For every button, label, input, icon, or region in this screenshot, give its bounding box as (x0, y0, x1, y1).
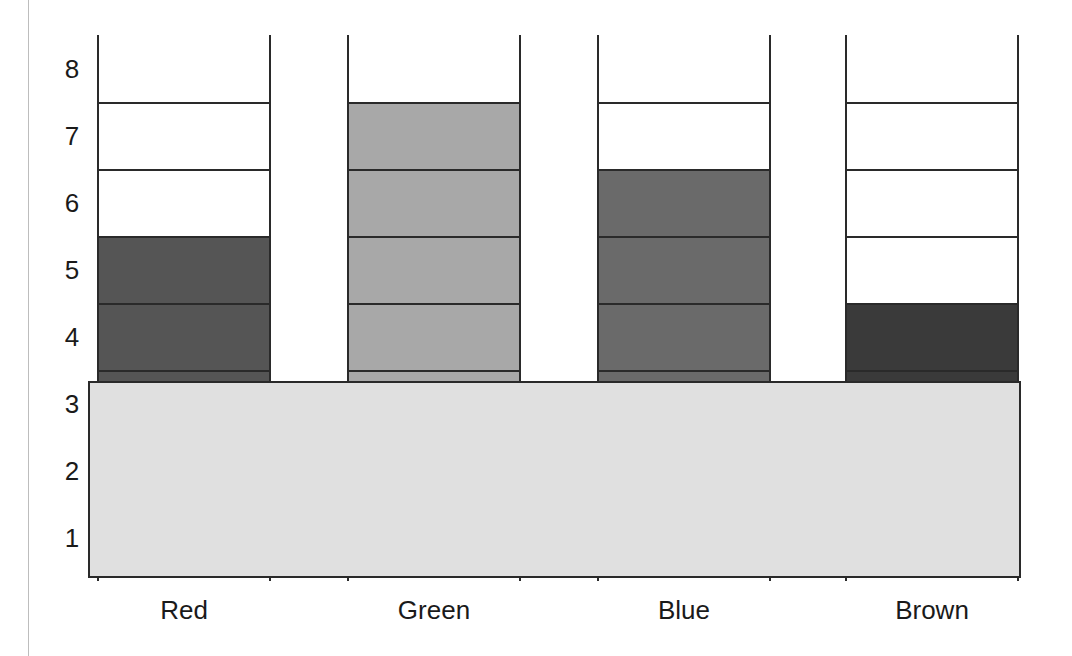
x-tick-label: Brown (845, 594, 1019, 626)
y-tick-label: 5 (56, 255, 88, 285)
x-tick-label: Red (97, 594, 271, 626)
y-tick-label: 1 (56, 523, 88, 553)
y-tick-label: 3 (56, 389, 88, 419)
bar-cell (99, 169, 269, 236)
occluding-rectangle (88, 381, 1021, 578)
y-tick-label: 7 (56, 121, 88, 151)
bar-cell (599, 303, 769, 370)
bar-cell (847, 169, 1017, 236)
bar-cell (99, 303, 269, 370)
bar-cell (599, 102, 769, 169)
bar-cell (599, 236, 769, 303)
bar-cell (847, 236, 1017, 303)
bar-cell (99, 236, 269, 303)
bar-cell (99, 102, 269, 169)
bar-cell (599, 169, 769, 236)
bar-cell (599, 35, 769, 102)
bar-cell (349, 169, 519, 236)
bar-cell (349, 303, 519, 370)
y-tick-label: 4 (56, 322, 88, 352)
bar-cell (847, 303, 1017, 370)
bar-cell (349, 236, 519, 303)
y-tick-label: 6 (56, 188, 88, 218)
y-tick-label: 8 (56, 54, 88, 84)
bar-cell (349, 35, 519, 102)
left-border-line (28, 0, 29, 656)
bar-cell (847, 102, 1017, 169)
bar-cell (847, 35, 1017, 102)
x-tick-label: Green (347, 594, 521, 626)
x-tick-label: Blue (597, 594, 771, 626)
bar-cell (99, 35, 269, 102)
bar-cell (349, 102, 519, 169)
y-tick-label: 2 (56, 456, 88, 486)
